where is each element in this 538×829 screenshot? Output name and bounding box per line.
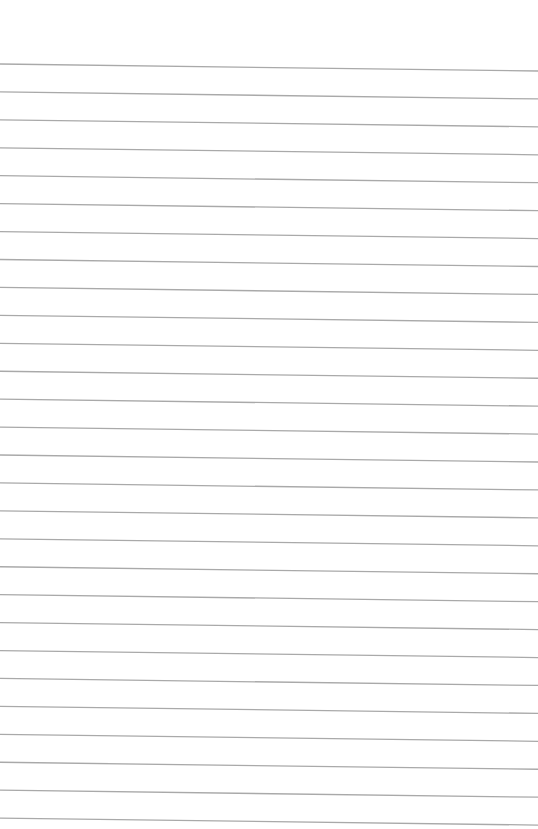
ruled-line (0, 343, 538, 350)
ruled-line (0, 511, 538, 518)
ruled-line (0, 734, 538, 741)
ruled-line (0, 148, 538, 155)
ruled-line (0, 623, 538, 630)
ruled-lines (0, 0, 538, 829)
ruled-line (0, 232, 538, 239)
ruled-line (0, 371, 538, 378)
ruled-line (0, 260, 538, 267)
lined-paper-sheet (0, 0, 538, 829)
ruled-line (0, 567, 538, 574)
ruled-line (0, 287, 538, 294)
ruled-line (0, 818, 538, 825)
ruled-line (0, 64, 538, 71)
ruled-line (0, 539, 538, 546)
ruled-line (0, 176, 538, 183)
ruled-line (0, 595, 538, 602)
ruled-line (0, 315, 538, 322)
ruled-line (0, 678, 538, 685)
ruled-line (0, 790, 538, 797)
ruled-line (0, 651, 538, 658)
ruled-line (0, 706, 538, 713)
ruled-line (0, 483, 538, 490)
ruled-line (0, 427, 538, 434)
ruled-line (0, 762, 538, 769)
ruled-line (0, 120, 538, 127)
ruled-line (0, 399, 538, 406)
ruled-line (0, 92, 538, 99)
ruled-line (0, 455, 538, 462)
ruled-line (0, 204, 538, 211)
